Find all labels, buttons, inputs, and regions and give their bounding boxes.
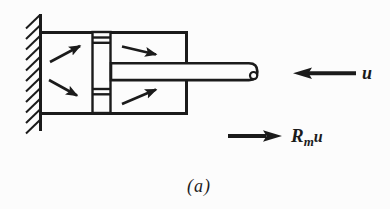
force-label: Rmu	[291, 126, 323, 148]
piston	[93, 32, 111, 113]
rod-shaft	[111, 63, 257, 80]
piston-body	[93, 32, 111, 113]
force-label-subscript: m	[304, 134, 314, 149]
figure-caption: (a)	[187, 177, 211, 195]
flow-arrow-upper-left	[50, 46, 80, 62]
wall-hatching	[26, 15, 40, 134]
fixed-wall	[26, 14, 41, 134]
force-label-coefficient: R	[291, 125, 304, 146]
force-arrow	[228, 130, 282, 141]
fluid-flow-arrows-left	[49, 46, 80, 96]
dashpot-figure: u Rmu (a)	[0, 0, 390, 209]
flow-arrow-upper-right	[122, 47, 156, 55]
flow-arrow-lower-right	[122, 90, 156, 105]
flow-arrow-lower-left	[49, 80, 77, 96]
velocity-arrow	[293, 68, 356, 79]
piston-rod	[111, 63, 257, 80]
rod-tip-knob	[250, 72, 257, 79]
velocity-label: u	[362, 64, 372, 82]
force-label-variable: u	[314, 128, 323, 145]
